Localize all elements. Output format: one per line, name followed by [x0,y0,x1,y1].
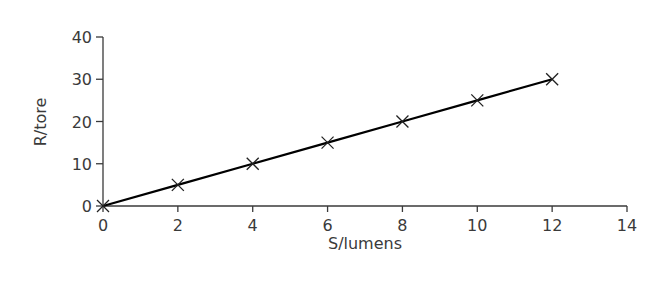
data-point-marker [471,94,483,106]
y-tick-label: 30 [72,70,92,89]
plot-area [97,73,558,212]
x-tick-label: 10 [467,216,487,235]
x-tick-label: 6 [322,216,332,235]
y-tick-label: 40 [72,28,92,47]
x-tick-label: 0 [98,216,108,235]
data-point-marker [172,179,184,191]
x-tick-label: 8 [397,216,407,235]
data-point-marker [396,116,408,128]
y-tick-label: 20 [72,113,92,132]
x-tick-label: 14 [617,216,637,235]
y-tick-label: 10 [72,155,92,174]
x-tick-label: 2 [173,216,183,235]
axes: 02468101214010203040 [72,28,638,235]
x-tick-label: 4 [248,216,258,235]
x-tick-label: 12 [542,216,562,235]
data-point-marker [322,137,334,149]
line-chart: 02468101214010203040 S/lumens R/tore [0,0,672,291]
data-point-marker [546,73,558,85]
data-point-marker [247,158,259,170]
x-axis-label: S/lumens [328,234,402,253]
y-tick-label: 0 [82,197,92,216]
y-axis-label: R/tore [31,98,50,147]
